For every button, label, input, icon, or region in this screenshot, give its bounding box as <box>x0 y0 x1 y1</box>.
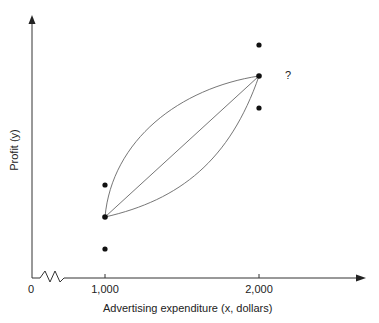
x-axis <box>32 271 357 282</box>
data-point <box>102 246 107 251</box>
data-point <box>256 105 261 110</box>
question-annotation: ? <box>285 69 291 81</box>
x-axis-label: Advertising expenditure (x, dollars) <box>103 302 272 314</box>
diagram-canvas <box>0 0 379 323</box>
data-point <box>256 73 262 79</box>
data-point <box>102 214 108 220</box>
data-point <box>256 42 261 47</box>
y-axis-label: Profit (y) <box>8 129 20 171</box>
x-tick-label-2000: 2,000 <box>245 283 273 295</box>
linear-line <box>105 76 259 217</box>
x-tick-label-1000: 1,000 <box>91 283 119 295</box>
x-tick-label-0: 0 <box>28 283 34 295</box>
y-axis-arrow-icon <box>29 15 36 24</box>
data-point <box>102 182 107 187</box>
x-axis-arrow-icon <box>356 275 366 282</box>
